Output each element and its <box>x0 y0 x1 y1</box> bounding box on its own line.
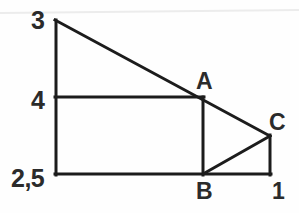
label-bottom-right: 1 <box>272 180 285 203</box>
label-bottom-left: 2,5 <box>11 166 44 191</box>
label-point-c: C <box>269 111 286 134</box>
label-point-b: B <box>196 180 213 203</box>
label-mid-left: 4 <box>31 88 45 113</box>
geometry-figure: 3 4 2,5 A B C 1 <box>0 0 299 213</box>
label-top-left: 3 <box>31 8 45 33</box>
label-point-a: A <box>196 70 213 93</box>
